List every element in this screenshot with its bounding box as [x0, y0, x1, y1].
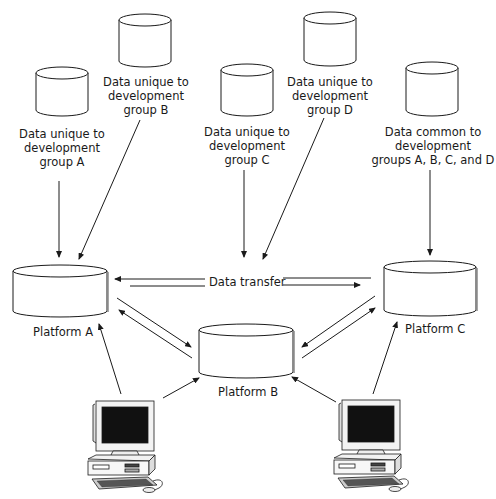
data-store-common-label: Data common to development groups A, B, … — [367, 125, 496, 167]
arrow-right-pc-to-platform-b — [292, 377, 336, 402]
data-store-d-label: Data unique to development group D — [270, 75, 390, 117]
arrow-left-pc-to-platform-a — [99, 324, 121, 394]
platform-c-cylinder — [384, 261, 477, 316]
arrow-platform-a-to-b — [117, 298, 191, 347]
data-store-common-cylinder — [406, 62, 458, 116]
arrow-left-pc-to-platform-b — [163, 378, 199, 398]
data-store-d-cylinder — [304, 12, 356, 66]
data-store-b-cylinder — [119, 14, 171, 67]
arrow-platform-c-to-b — [302, 296, 375, 347]
desktop-computer-icon — [88, 401, 162, 493]
data-store-a-label: Data unique to development group A — [2, 127, 122, 169]
data-store-c-cylinder — [221, 64, 273, 116]
desktop-computer-icon — [334, 400, 408, 492]
arrow-platform-b-to-a — [119, 310, 192, 358]
platform-a-cylinder — [13, 265, 108, 317]
data-store-b-label: Data unique to development group B — [86, 75, 206, 117]
arrow-right-pc-to-platform-c — [373, 322, 397, 394]
data-store-c-label: Data unique to development group C — [187, 125, 307, 167]
platform-b-cylinder — [199, 324, 294, 378]
data-transfer-label: Data transfer — [209, 275, 286, 289]
platform-b-label: Platform B — [218, 385, 278, 399]
data-store-a-cylinder — [36, 67, 88, 116]
platform-c-label: Platform C — [405, 322, 465, 336]
platform-a-label: Platform A — [33, 325, 93, 339]
arrow-platform-b-to-c — [302, 308, 375, 358]
